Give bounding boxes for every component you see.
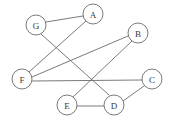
node-label-d: D: [111, 101, 118, 111]
graph-node-e[interactable]: E: [57, 95, 77, 115]
node-label-a: A: [90, 10, 97, 20]
edge-d-c: [123, 86, 144, 101]
edge-g-d: [41, 34, 109, 95]
node-layer: ABCDEFG: [12, 4, 162, 115]
graph-node-d[interactable]: D: [104, 95, 124, 115]
graph-canvas: ABCDEFG: [0, 0, 170, 124]
graph-node-g[interactable]: G: [26, 15, 46, 35]
graph-node-a[interactable]: A: [83, 4, 103, 24]
node-label-b: B: [135, 29, 141, 39]
graph-node-b[interactable]: B: [128, 23, 148, 43]
node-label-g: G: [33, 21, 40, 31]
edge-layer: [29, 16, 144, 106]
node-label-e: E: [64, 101, 70, 111]
node-label-c: C: [149, 75, 155, 85]
graph-diagram: ABCDEFG: [0, 0, 170, 124]
graph-node-f[interactable]: F: [12, 69, 32, 89]
graph-node-c[interactable]: C: [142, 69, 162, 89]
node-label-f: F: [19, 75, 24, 85]
edge-f-c: [32, 80, 142, 81]
edge-g-a: [46, 16, 83, 22]
